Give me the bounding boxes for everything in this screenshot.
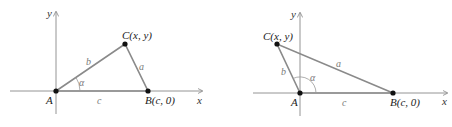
point-b	[145, 88, 150, 93]
label-c-point: C(x, y)	[263, 30, 293, 43]
angle-label: α	[310, 72, 316, 83]
y-axis-label: y	[46, 7, 52, 19]
diagram-left: y x A C(x, y) B(c, 0) b a c α	[10, 7, 202, 114]
triangle	[277, 44, 393, 93]
point-a	[297, 90, 302, 95]
label-b-point: B(c, 0)	[145, 94, 175, 107]
label-b-point: B(c, 0)	[390, 96, 420, 109]
side-a-label: a	[139, 61, 144, 72]
point-c	[274, 41, 279, 46]
side-b-label: b	[281, 66, 286, 77]
side-a-label: a	[336, 58, 341, 69]
side-c-label: c	[97, 95, 102, 106]
triangle	[56, 44, 148, 91]
x-axis-label: x	[441, 95, 447, 107]
label-c-point: C(x, y)	[122, 29, 152, 42]
point-c	[122, 41, 127, 46]
point-b	[390, 90, 395, 95]
side-c-label: c	[342, 97, 347, 108]
label-a-point: A	[290, 96, 298, 108]
figure: y x A C(x, y) B(c, 0) b a c α y x A C(x,…	[0, 0, 452, 127]
label-a-point: A	[45, 94, 53, 106]
diagram-right: y x A C(x, y) B(c, 0) b a c α	[253, 8, 447, 116]
x-axis-label: x	[196, 94, 202, 106]
point-a	[53, 88, 58, 93]
y-axis-label: y	[290, 8, 296, 20]
angle-label: α	[79, 77, 85, 88]
side-b-label: b	[86, 56, 91, 67]
